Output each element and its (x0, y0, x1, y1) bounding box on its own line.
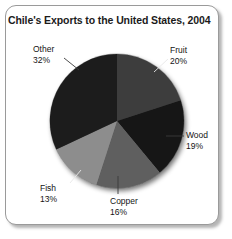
pie-label-copper-value: 16% (110, 207, 138, 218)
chart-figure: Chile's Exports to the United States, 20… (0, 0, 232, 239)
pie-label-copper-name: Copper (110, 196, 138, 206)
pie-label-wood-value: 19% (186, 141, 208, 152)
pie-label-fruit-name: Fruit (170, 45, 187, 55)
pie-label-wood: Wood 19% (186, 130, 208, 151)
pie-label-other-value: 32% (33, 55, 54, 66)
pie-label-fruit-value: 20% (170, 56, 187, 67)
pie-label-fish-name: Fish (40, 183, 56, 193)
pie-label-fish-value: 13% (40, 194, 57, 205)
pie-label-wood-name: Wood (186, 130, 208, 140)
pie-label-copper: Copper 16% (110, 196, 138, 217)
leader-line-other (64, 58, 79, 70)
pie-label-fruit: Fruit 20% (170, 45, 187, 66)
pie-label-other: Other 32% (33, 44, 54, 65)
pie-label-fish: Fish 13% (40, 183, 57, 204)
pie-slices (50, 54, 184, 188)
pie-label-other-name: Other (33, 44, 54, 54)
